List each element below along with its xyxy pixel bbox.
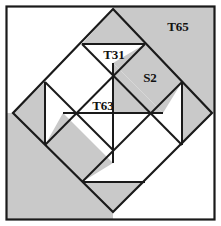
label-s2: S2 [143, 70, 157, 85]
dissection-canvas: T65 T31 S2 T63 [0, 0, 221, 226]
label-t65: T65 [167, 19, 189, 34]
label-t31: T31 [103, 47, 125, 62]
dissection-figure: T65 T31 S2 T63 [0, 0, 221, 226]
label-t63: T63 [92, 98, 114, 113]
